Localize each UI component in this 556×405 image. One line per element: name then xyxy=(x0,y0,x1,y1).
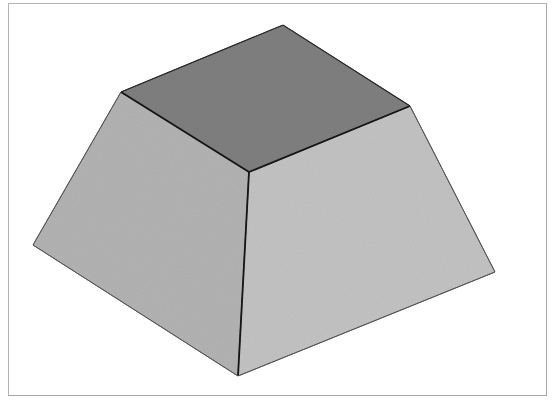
frustum-figure xyxy=(0,0,556,405)
